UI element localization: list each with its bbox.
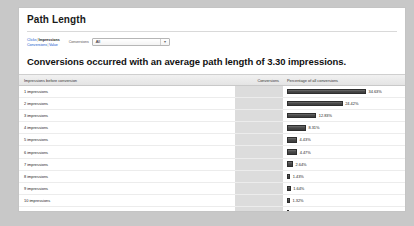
percentage-value: 0.85%: [292, 210, 303, 212]
row-conversions: [235, 171, 283, 182]
summary-headline: Conversions occurred with an average pat…: [19, 48, 405, 68]
row-percentage: 0.85%: [283, 207, 405, 212]
metric-link-impressions[interactable]: Impressions: [39, 38, 60, 42]
row-conversions: [235, 183, 283, 194]
table-row: 10 impressions1.32%: [19, 195, 405, 207]
table-row: 8 impressions1.43%: [19, 171, 405, 183]
percentage-value: 1.32%: [293, 198, 304, 203]
percentage-bar: [287, 210, 289, 212]
row-conversions: [235, 86, 283, 97]
percentage-bar: [287, 198, 290, 203]
row-conversions: [235, 146, 283, 157]
table-row: 5 impressions4.43%: [19, 134, 405, 146]
row-label: 8 impressions: [19, 171, 235, 182]
page-title: Path Length: [27, 14, 397, 26]
row-label: 10 impressions: [19, 195, 235, 206]
row-conversions: [235, 207, 283, 212]
percentage-value: 1.64%: [293, 186, 304, 191]
percentage-bar: [287, 186, 291, 191]
row-label: 6 impressions: [19, 146, 235, 157]
column-header-percentage: Percentage of all conversions: [283, 78, 405, 83]
percentage-value: 12.83%: [319, 113, 332, 118]
metric-link-conversions[interactable]: Conversions: [27, 43, 47, 47]
percentage-bar: [287, 125, 306, 130]
percentage-bar: [287, 174, 290, 179]
percentage-value: 24.42%: [345, 101, 358, 106]
row-label: 5 impressions: [19, 134, 235, 145]
table-row: 2 impressions24.42%: [19, 98, 405, 110]
row-conversions: [235, 110, 283, 121]
table-row: 4 impressions8.31%: [19, 122, 405, 134]
row-label: 7 impressions: [19, 159, 235, 170]
table-row: 7 impressions2.64%: [19, 159, 405, 171]
table-row: 11 impressions0.85%: [19, 207, 405, 212]
row-percentage: 1.43%: [283, 171, 405, 182]
row-percentage: 2.64%: [283, 159, 405, 170]
conversions-filter-label: Conversions: [69, 40, 89, 44]
controls-bar: Clicks|Impressions Conversions|Value Con…: [19, 32, 405, 48]
panel-header: Path Length: [19, 8, 405, 32]
row-conversions: [235, 159, 283, 170]
table-row: 6 impressions4.47%: [19, 146, 405, 158]
percentage-value: 34.63%: [369, 89, 382, 94]
table-header-row: Impressions before conversion Conversion…: [19, 74, 405, 86]
percentage-bar: [287, 149, 297, 154]
percentage-value: 1.43%: [293, 174, 304, 179]
conversions-filter: Conversions All ▾: [69, 37, 170, 46]
percentage-bar: [287, 113, 316, 118]
column-header-impressions: Impressions before conversion: [19, 78, 235, 83]
metric-link-value[interactable]: Value: [49, 43, 58, 47]
row-conversions: [235, 98, 283, 109]
metric-row-2: Conversions|Value: [27, 43, 60, 48]
row-label: 1 impressions: [19, 86, 235, 97]
table-body: 1 impressions34.63%2 impressions24.42%3 …: [19, 86, 405, 212]
row-label: 2 impressions: [19, 98, 235, 109]
row-percentage: 1.32%: [283, 195, 405, 206]
row-label: 9 impressions: [19, 183, 235, 194]
percentage-value: 2.64%: [296, 162, 307, 167]
path-length-panel: Path Length Clicks|Impressions Conversio…: [18, 7, 406, 212]
column-header-conversions: Conversions: [235, 78, 283, 83]
row-percentage: 4.43%: [283, 134, 405, 145]
percentage-bar: [287, 137, 297, 142]
percentage-value: 4.47%: [300, 150, 311, 155]
metric-link-clicks[interactable]: Clicks: [27, 38, 37, 42]
row-conversions: [235, 195, 283, 206]
percentage-bar: [287, 89, 366, 94]
table-row: 3 impressions12.83%: [19, 110, 405, 122]
chevron-down-icon: ▾: [160, 39, 169, 45]
path-length-table: Impressions before conversion Conversion…: [19, 74, 405, 211]
table-row: 9 impressions1.64%: [19, 183, 405, 195]
row-percentage: 12.83%: [283, 110, 405, 121]
row-percentage: 34.63%: [283, 86, 405, 97]
percentage-value: 8.31%: [308, 125, 319, 130]
row-percentage: 8.31%: [283, 122, 405, 133]
percentage-value: 4.43%: [300, 137, 311, 142]
row-conversions: [235, 134, 283, 145]
row-label: 3 impressions: [19, 110, 235, 121]
metric-selector: Clicks|Impressions Conversions|Value: [27, 37, 60, 48]
conversions-select[interactable]: All ▾: [92, 38, 170, 46]
percentage-bar: [287, 161, 293, 166]
percentage-bar: [287, 101, 343, 106]
row-label: 4 impressions: [19, 122, 235, 133]
row-percentage: 24.42%: [283, 98, 405, 109]
row-percentage: 1.64%: [283, 183, 405, 194]
row-percentage: 4.47%: [283, 146, 405, 157]
table-row: 1 impressions34.63%: [19, 86, 405, 98]
conversions-select-value: All: [93, 39, 100, 45]
row-conversions: [235, 122, 283, 133]
row-label: 11 impressions: [19, 207, 235, 212]
